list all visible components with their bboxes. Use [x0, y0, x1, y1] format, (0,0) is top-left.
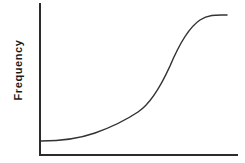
plot-svg	[0, 0, 245, 163]
sigmoid-curve	[41, 15, 227, 141]
chart-area: Frequency	[0, 0, 245, 163]
chart-screenshot: Frequency	[0, 0, 245, 163]
